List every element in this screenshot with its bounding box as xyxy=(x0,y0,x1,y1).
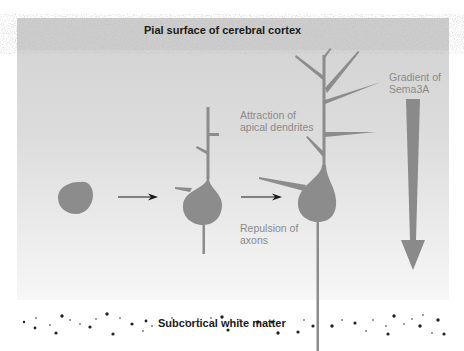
diagram-canvas xyxy=(0,0,464,351)
attraction-label-line1: Attraction of xyxy=(240,109,314,121)
white-matter-label: Subcortical white matter xyxy=(158,317,286,330)
gradient-label: Gradient of Sema3A xyxy=(389,71,441,95)
gradient-label-line1: Gradient of xyxy=(389,71,441,83)
attraction-label-line2: apical dendrites xyxy=(240,121,314,133)
attraction-label: Attraction of apical dendrites xyxy=(240,109,314,133)
repulsion-label: Repulsion of axons xyxy=(240,222,298,246)
pial-surface-label: Pial surface of cerebral cortex xyxy=(144,24,301,37)
repulsion-label-line2: axons xyxy=(240,234,298,246)
repulsion-label-line1: Repulsion of xyxy=(240,222,298,234)
sema3a-neuron-diagram: Pial surface of cerebral cortex Subcorti… xyxy=(0,0,464,351)
gradient-label-line2: Sema3A xyxy=(389,83,441,95)
